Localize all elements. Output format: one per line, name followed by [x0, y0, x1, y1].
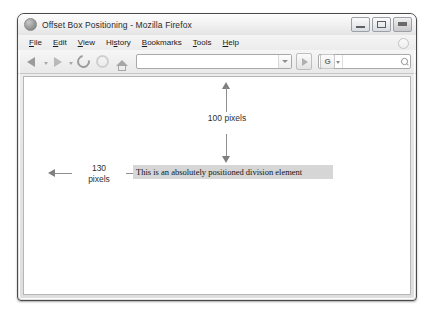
horizontal-measure-label: 130 pixels [72, 163, 126, 185]
menu-item-bookmarks[interactable]: Bookmarks [142, 38, 182, 47]
horizontal-measure-value: 130 [72, 163, 126, 174]
page-content-area: 100 pixels 130 pixels This is an absolut… [23, 76, 411, 295]
window-title: Offset Box Positioning - Mozilla Firefox [42, 20, 351, 30]
menu-item-file[interactable]: File [29, 38, 42, 47]
vertical-measure-label: 100 pixels [181, 113, 273, 123]
back-dropdown-icon[interactable] [44, 57, 48, 67]
menu-item-view[interactable]: View [78, 38, 95, 47]
menu-item-tools[interactable]: Tools [193, 38, 212, 47]
title-bar[interactable]: Offset Box Positioning - Mozilla Firefox [18, 14, 416, 35]
window-controls [351, 17, 412, 32]
menu-item-help[interactable]: Help [223, 38, 239, 47]
arrow-down-icon [222, 156, 230, 163]
minimize-button[interactable] [351, 17, 370, 32]
menu-label-help-rest: elp [228, 38, 239, 47]
horizontal-measure-unit: pixels [72, 174, 126, 185]
menu-item-edit[interactable]: Edit [53, 38, 67, 47]
menubar-status-icon [398, 38, 409, 49]
search-input[interactable] [342, 55, 398, 68]
menu-label-bookmarks-rest: ookmarks [147, 38, 182, 47]
menu-label-view-rest: iew [83, 38, 95, 47]
navigation-toolbar: G [18, 50, 416, 74]
vertical-line-bottom [226, 134, 227, 157]
reload-icon[interactable] [75, 53, 92, 70]
vertical-measure: 100 pixels [209, 82, 245, 162]
absolutely-positioned-box: This is an absolutely positioned divisio… [133, 165, 333, 179]
maximize-button[interactable] [372, 17, 391, 32]
back-arrow-icon[interactable] [25, 53, 42, 70]
browser-window: Offset Box Positioning - Mozilla Firefox… [17, 13, 417, 301]
menu-label-history-b: tory [117, 38, 130, 47]
google-icon[interactable]: G [320, 54, 335, 69]
menu-label-tools-rest: ools [197, 38, 212, 47]
forward-dropdown-icon[interactable] [69, 57, 73, 67]
home-icon[interactable] [113, 53, 130, 70]
search-bar[interactable]: G [318, 54, 411, 69]
chevron-down-icon[interactable] [278, 55, 291, 68]
vertical-line-top [226, 87, 227, 112]
firefox-icon [24, 18, 37, 31]
url-bar[interactable] [136, 54, 292, 69]
go-button[interactable] [296, 53, 312, 70]
stop-icon[interactable] [94, 53, 111, 70]
forward-arrow-icon[interactable] [50, 53, 67, 70]
menu-label-file-rest: ile [34, 38, 42, 47]
close-button[interactable] [393, 17, 412, 32]
menu-label-edit-rest: dit [58, 38, 66, 47]
menu-item-history[interactable]: History [106, 38, 131, 47]
magnifier-icon[interactable] [398, 58, 410, 65]
menu-bar: File Edit View History Bookmarks Tools H… [18, 35, 416, 50]
